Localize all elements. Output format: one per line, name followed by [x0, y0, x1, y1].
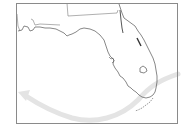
florida-map	[0, 0, 189, 131]
map-background	[0, 0, 189, 131]
